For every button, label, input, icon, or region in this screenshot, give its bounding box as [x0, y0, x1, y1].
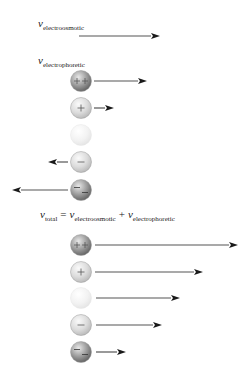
positive-electrophoretic-arrow-icon: [94, 105, 114, 111]
double-positive-particle: [71, 71, 92, 92]
electroosmotic-arrow: [79, 33, 160, 39]
negative-particle: [71, 152, 92, 173]
positive-total-arrow-icon: [95, 269, 203, 275]
double-negative-electrophoretic-arrow-icon: [12, 187, 68, 193]
neutral-particle: [71, 288, 92, 309]
positive-particle: [71, 98, 92, 119]
neutral-total-arrow-icon: [96, 295, 180, 301]
negative-total-arrow-icon: [96, 322, 162, 328]
electrophoretic-particles: [12, 71, 147, 201]
double-positive-total-arrow-icon: [95, 242, 238, 248]
positive-particle: [71, 262, 92, 283]
double-negative-particle: [71, 180, 92, 201]
total-velocity-particles: [71, 235, 239, 363]
negative-electrophoretic-arrow-icon: [48, 159, 68, 165]
neutral-particle: [71, 125, 92, 146]
double-positive-electrophoretic-arrow-icon: [94, 78, 147, 84]
electroosmotic-arrow-icon: [79, 33, 160, 39]
diagram-canvas: [0, 0, 252, 378]
double-positive-particle: [71, 235, 92, 256]
double-negative-total-arrow-icon: [96, 349, 126, 355]
negative-particle: [71, 315, 92, 336]
double-negative-particle: [71, 342, 92, 363]
